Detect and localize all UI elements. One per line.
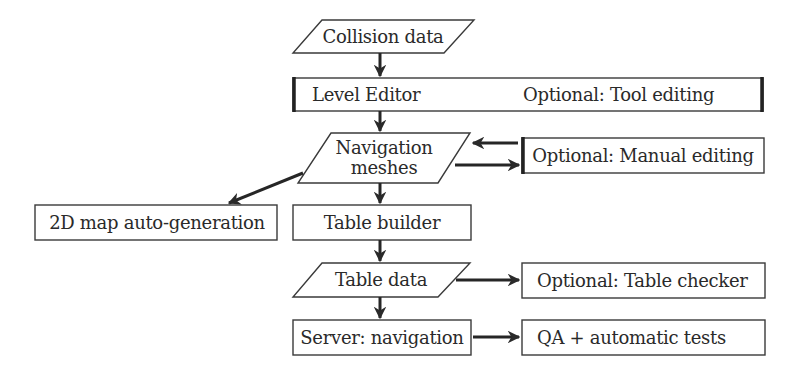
map-autogen-label: 2D map auto-generation [49, 214, 265, 232]
level-editor-label: Level Editor [312, 86, 420, 104]
navigation-meshes-line2: meshes [335, 158, 432, 178]
arrow-navmesh-to-map [229, 173, 303, 203]
table-checker-label: Optional: Table checker [537, 272, 748, 290]
tool-editing-label: Optional: Tool editing [523, 86, 714, 104]
table-data-label: Table data [335, 271, 427, 289]
server-navigation-label: Server: navigation [300, 329, 463, 347]
qa-tests-label: QA + automatic tests [537, 329, 726, 347]
navigation-meshes-line1: Navigation [335, 138, 432, 158]
table-builder-label: Table builder [324, 214, 441, 232]
flowchart-shapes [0, 0, 806, 375]
flowchart-canvas: Collision data Level Editor Optional: To… [0, 0, 806, 375]
manual-editing-label: Optional: Manual editing [532, 147, 753, 165]
navigation-meshes-label: Navigation meshes [335, 138, 432, 178]
collision-data-label: Collision data [322, 28, 443, 46]
